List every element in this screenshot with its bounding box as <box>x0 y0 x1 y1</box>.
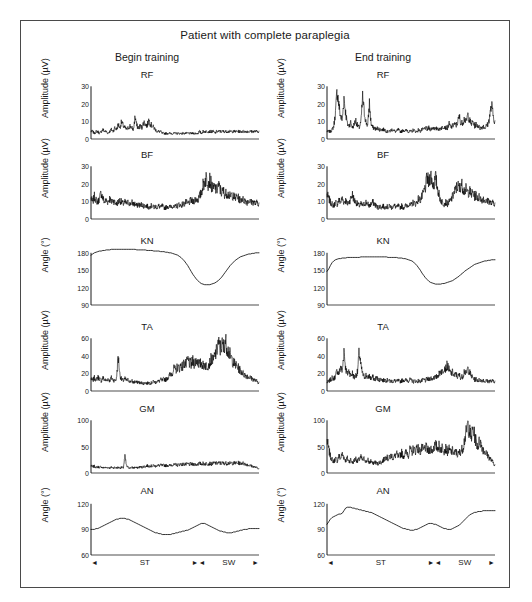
y-tick-an-begin-90: 90 <box>81 526 89 533</box>
y-tick-labels-bf-begin: 3020100 <box>63 161 89 219</box>
panel-title-gm-end: GM <box>269 403 497 414</box>
y-tick-bf-begin-10: 10 <box>81 198 89 205</box>
phase-swing-begin: ◄SW► <box>199 555 259 569</box>
trace-bf-end <box>327 161 495 219</box>
trace-ta-end <box>327 333 495 391</box>
phase-arrow-left-stance: ◄ <box>327 559 334 566</box>
y-tick-labels-an-begin: 1209060 <box>63 497 89 555</box>
plot-area-ta-end <box>327 333 495 391</box>
y-tick-ta-end-20: 20 <box>317 370 325 377</box>
y-tick-ta-end-60: 60 <box>317 335 325 342</box>
y-tick-labels-rf-end: 3020100 <box>299 81 325 139</box>
y-tick-kn-end-90: 90 <box>317 302 325 309</box>
phase-label-stance: ST <box>374 558 388 567</box>
y-tick-ta-begin-20: 20 <box>81 370 89 377</box>
y-tick-gm-begin-100: 100 <box>77 417 89 424</box>
plot-area-an-begin <box>91 497 259 555</box>
y-tick-labels-ta-end: 6040200 <box>299 333 325 391</box>
y-axis-caption-ta-end: Amplitude (µV) <box>276 312 288 370</box>
plot-area-ta-begin <box>91 333 259 391</box>
panel-title-bf-end: BF <box>269 149 497 160</box>
panel-ta-end: TAAmplitude (µV)6040200 <box>269 321 497 401</box>
panel-gm-begin: GMAmplitude (µV)100500 <box>33 403 261 483</box>
y-tick-rf-begin-10: 10 <box>81 118 89 125</box>
y-tick-an-end-90: 90 <box>317 526 325 533</box>
y-tick-kn-begin-150: 150 <box>77 267 89 274</box>
plot-area-kn-begin <box>91 247 259 305</box>
y-tick-bf-end-20: 20 <box>317 180 325 187</box>
plot-area-gm-begin <box>91 415 259 473</box>
y-tick-labels-gm-end: 100500 <box>299 415 325 473</box>
trace-rf-begin <box>91 81 259 139</box>
trace-an-begin <box>91 497 259 555</box>
phase-arrow-right-stance: ► <box>428 559 435 566</box>
column-header-end-training: End training <box>283 51 483 63</box>
y-tick-labels-rf-begin: 3020100 <box>63 81 89 139</box>
plot-area-bf-begin <box>91 161 259 219</box>
figure-root: Patient with complete paraplegia Begin t… <box>0 0 532 602</box>
y-tick-bf-end-30: 30 <box>317 163 325 170</box>
panel-bf-begin: BFAmplitude (µV)3020100 <box>33 149 261 229</box>
trace-kn-end <box>327 247 495 305</box>
phase-label-stance: ST <box>138 558 152 567</box>
phase-arrow-left-swing: ◄ <box>435 559 442 566</box>
y-tick-ta-begin-60: 60 <box>81 335 89 342</box>
plot-area-kn-end <box>327 247 495 305</box>
y-tick-bf-begin-20: 20 <box>81 180 89 187</box>
trace-gm-begin <box>91 415 259 473</box>
y-axis-caption-an-begin: Angle (°) <box>40 476 52 534</box>
panel-kn-begin: KNAngle (°)18015012090 <box>33 235 261 315</box>
y-tick-bf-end-0: 0 <box>321 216 325 223</box>
panel-title-kn-end: KN <box>269 235 497 246</box>
y-axis-caption-kn-begin: Angle (°) <box>40 226 52 284</box>
plot-area-rf-begin <box>91 81 259 139</box>
phase-stance-end: ◄ST► <box>327 555 435 569</box>
y-axis-caption-rf-begin: Amplitude (µV) <box>40 60 52 118</box>
y-tick-labels-gm-begin: 100500 <box>63 415 89 473</box>
phase-label-swing: SW <box>220 558 237 567</box>
y-tick-ta-end-40: 40 <box>317 352 325 359</box>
y-tick-kn-end-150: 150 <box>313 267 325 274</box>
figure-frame: Patient with complete paraplegia Begin t… <box>20 20 510 588</box>
phase-arrow-left-stance: ◄ <box>91 559 98 566</box>
y-tick-gm-begin-50: 50 <box>81 443 89 450</box>
y-tick-kn-begin-180: 180 <box>77 249 89 256</box>
phase-bar-end: ◄ST►◄SW► <box>327 555 495 569</box>
y-tick-rf-begin-0: 0 <box>85 136 89 143</box>
y-tick-ta-begin-40: 40 <box>81 352 89 359</box>
y-tick-gm-end-0: 0 <box>321 470 325 477</box>
y-tick-rf-end-10: 10 <box>317 118 325 125</box>
panel-title-an-begin: AN <box>33 485 261 496</box>
panel-rf-begin: RFAmplitude (µV)3020100 <box>33 69 261 149</box>
panel-title-gm-begin: GM <box>33 403 261 414</box>
y-tick-labels-an-end: 1209060 <box>299 497 325 555</box>
figure-title: Patient with complete paraplegia <box>21 29 509 41</box>
phase-swing-end: ◄SW► <box>435 555 495 569</box>
trace-gm-end <box>327 415 495 473</box>
y-tick-ta-end-0: 0 <box>321 388 325 395</box>
trace-kn-begin <box>91 247 259 305</box>
y-tick-rf-end-20: 20 <box>317 100 325 107</box>
panel-an-begin: ANAngle (°)1209060◄ST►◄SW► <box>33 485 261 565</box>
y-axis-caption-ta-begin: Amplitude (µV) <box>40 312 52 370</box>
trace-ta-begin <box>91 333 259 391</box>
y-tick-gm-end-100: 100 <box>313 417 325 424</box>
phase-arrow-right-swing: ► <box>252 559 259 566</box>
y-tick-an-end-120: 120 <box>313 500 325 507</box>
y-tick-rf-end-0: 0 <box>321 136 325 143</box>
panel-rf-end: RFAmplitude (µV)3020100 <box>269 69 497 149</box>
trace-bf-begin <box>91 161 259 219</box>
panel-ta-begin: TAAmplitude (µV)6040200 <box>33 321 261 401</box>
plot-area-bf-end <box>327 161 495 219</box>
y-axis-caption-kn-end: Angle (°) <box>276 226 288 284</box>
y-axis-caption-bf-end: Amplitude (µV) <box>276 140 288 198</box>
y-tick-rf-begin-20: 20 <box>81 100 89 107</box>
y-tick-gm-end-50: 50 <box>317 443 325 450</box>
y-tick-kn-end-120: 120 <box>313 284 325 291</box>
y-tick-an-begin-60: 60 <box>81 552 89 559</box>
panel-gm-end: GMAmplitude (µV)100500 <box>269 403 497 483</box>
y-tick-bf-end-10: 10 <box>317 198 325 205</box>
panel-kn-end: KNAngle (°)18015012090 <box>269 235 497 315</box>
phase-label-swing: SW <box>456 558 473 567</box>
panel-title-ta-begin: TA <box>33 321 261 332</box>
